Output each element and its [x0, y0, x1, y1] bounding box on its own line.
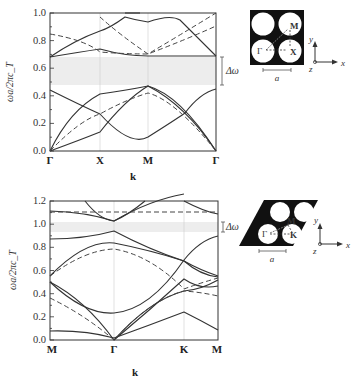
top-ytick: 0.0: [33, 145, 46, 156]
top-band-gap: [50, 57, 216, 85]
axis-x-label: x: [340, 58, 345, 68]
top-ytick: 0.2: [33, 117, 46, 128]
bottom-xtick: Γ: [111, 343, 118, 355]
bottom-ylabel: ωa/2πc_T: [7, 249, 18, 290]
bottom-plot-frame: [50, 201, 218, 340]
axis-y-label-hex: y: [313, 215, 318, 225]
square-lattice-inset: Γ X M a: [250, 10, 304, 83]
hexagonal-lattice-inset: Γ K M a: [239, 200, 318, 264]
axis-x-label-hex: x: [345, 240, 350, 250]
axis-z-label: z: [308, 64, 313, 74]
bottom-gap-bracket: Δω: [221, 221, 239, 232]
inset-a-label: a: [275, 73, 280, 83]
bottom-gap-label: Δω: [225, 221, 239, 232]
inset-a-label-hex: a: [270, 254, 275, 264]
bottom-band-gap: [50, 222, 218, 232]
bottom-xtick: M: [212, 343, 223, 355]
top-gap-bracket: Δω: [220, 57, 239, 85]
bottom-ytick: 0.8: [33, 241, 46, 252]
bottom-panel: 0.0 0.2 0.4 0.6 0.8 1.0 1.2 ωa/2πc_T M Γ…: [7, 194, 350, 378]
top-axes-indicator: y x z: [308, 34, 345, 74]
inset-m: M: [290, 21, 299, 31]
top-ytick: 0.6: [33, 62, 46, 73]
top-ytick: 0.4: [33, 90, 47, 101]
top-gap-label: Δω: [225, 65, 239, 76]
top-xtick: Γ: [213, 154, 220, 166]
top-xlabel: k: [130, 170, 137, 182]
bottom-xtick: M: [47, 343, 58, 355]
top-xtick: Γ: [47, 154, 54, 166]
bottom-ytick: 0.0: [33, 334, 46, 345]
top-xtick: X: [96, 154, 104, 166]
top-xtick: M: [143, 154, 154, 166]
bottom-ytick: 1.0: [33, 218, 46, 229]
axis-z-label-hex: z: [312, 246, 317, 256]
bottom-ytick: 0.6: [33, 265, 46, 276]
bottom-ytick: 1.2: [33, 195, 46, 206]
bottom-ytick: 0.4: [33, 288, 47, 299]
figure: 0.0 0.2 0.4 0.6 0.8 1.0 ωa/2πc_T Γ X M Γ…: [0, 0, 356, 379]
inset-x: X: [290, 47, 297, 57]
bottom-xtick: K: [180, 343, 189, 355]
inset-m-hex: M: [287, 216, 296, 226]
bottom-axes-indicator: y x z: [312, 215, 350, 256]
bottom-bands: [50, 194, 218, 340]
axis-y-label: y: [308, 34, 313, 44]
bottom-ytick: 0.2: [33, 311, 46, 322]
top-ylabel: ωa/2πc_T: [4, 61, 15, 102]
top-ytick: 1.0: [33, 7, 46, 18]
inset-gamma-hex: Γ: [262, 229, 267, 239]
bottom-xlabel: k: [132, 366, 139, 378]
top-panel: 0.0 0.2 0.4 0.6 0.8 1.0 ωa/2πc_T Γ X M Γ…: [4, 7, 345, 182]
top-ytick: 0.8: [33, 35, 46, 46]
inset-gamma: Γ: [257, 46, 262, 56]
inset-k-hex: K: [290, 230, 297, 240]
